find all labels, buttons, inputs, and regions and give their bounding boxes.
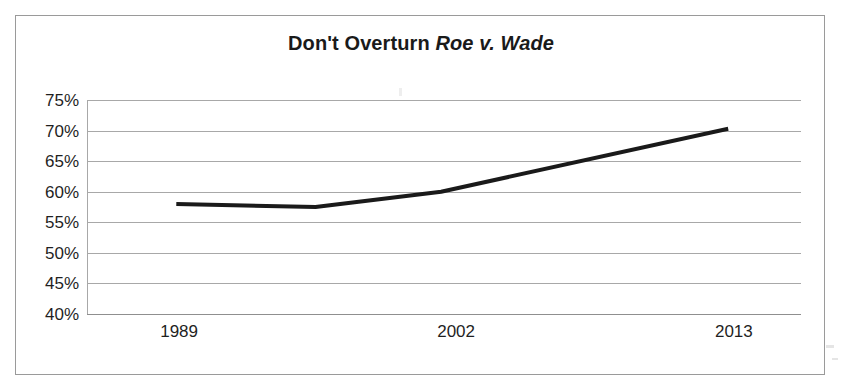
plot-area <box>87 100 801 314</box>
x-tick-label-2013: 2013 <box>715 322 753 342</box>
x-tick-label-2002: 2002 <box>437 322 475 342</box>
line-series <box>87 100 801 314</box>
chart-frame: Don't Overturn Roe v. Wade 75%70%65%60%5… <box>15 15 825 375</box>
y-tick-label: 60% <box>27 184 79 201</box>
series-polyline <box>176 129 728 207</box>
y-tick-label: 50% <box>27 245 79 262</box>
y-tick-label: 40% <box>27 306 79 323</box>
gridline-40 <box>87 314 801 315</box>
x-tick-label-1989: 1989 <box>160 322 198 342</box>
scan-artifact <box>826 345 834 348</box>
x-axis-labels: 198920022013 <box>87 322 801 350</box>
scan-artifact <box>399 88 402 96</box>
chart-title: Don't Overturn Roe v. Wade <box>16 32 826 55</box>
scan-artifact <box>832 358 838 360</box>
chart-title-emphasis: Roe v. Wade <box>435 32 554 54</box>
y-tick-label: 75% <box>27 92 79 109</box>
chart-title-plain: Don't Overturn <box>288 32 435 54</box>
y-tick-label: 55% <box>27 214 79 231</box>
y-axis-labels: 75%70%65%60%55%50%45%40% <box>24 100 79 314</box>
y-tick-label: 70% <box>27 123 79 140</box>
y-tick-label: 65% <box>27 153 79 170</box>
chart-figure: Don't Overturn Roe v. Wade 75%70%65%60%5… <box>0 0 844 389</box>
y-tick-label: 45% <box>27 275 79 292</box>
